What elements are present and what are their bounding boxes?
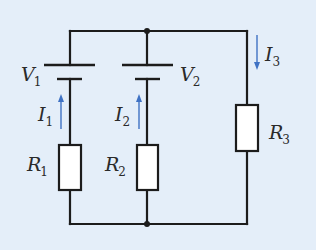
wires — [70, 31, 247, 224]
label-i3: I3 — [264, 43, 280, 69]
label-r2: R2 — [104, 153, 126, 179]
battery-v2 — [122, 65, 173, 79]
label-i2: I2 — [114, 103, 130, 129]
arrow-up-icon-i1 — [58, 94, 64, 129]
label-r1: R1 — [26, 153, 48, 179]
resistor-r1 — [59, 145, 81, 190]
label-r3: R3 — [268, 121, 290, 147]
resistor-r2 — [137, 145, 158, 190]
label-v1: V1 — [21, 63, 41, 89]
resistor-r3 — [236, 105, 258, 151]
junction-top — [144, 28, 150, 34]
circuit-svg: V1 V2 I1 I2 I3 R1 R2 R3 — [0, 0, 316, 250]
arrow-up-icon-i2 — [136, 94, 142, 129]
current-arrows — [58, 35, 260, 129]
arrow-down-icon-i3 — [254, 35, 260, 70]
junction-bottom — [144, 221, 150, 227]
label-v2: V2 — [180, 63, 200, 89]
battery-v1 — [44, 65, 95, 79]
label-i1: I1 — [37, 103, 53, 129]
circuit-diagram: V1 V2 I1 I2 I3 R1 R2 R3 — [0, 0, 316, 250]
